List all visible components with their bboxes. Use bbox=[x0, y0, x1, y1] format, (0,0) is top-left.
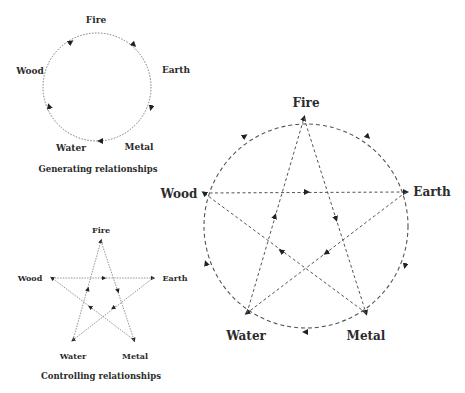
combined-label-wood: Wood bbox=[161, 187, 198, 201]
combined-label-water: Water bbox=[226, 329, 266, 343]
edge-fire-metal bbox=[304, 118, 366, 313]
controlling-caption: Controlling relationships bbox=[41, 371, 161, 381]
arrow-wood-to-fire-icon bbox=[68, 42, 71, 44]
controlling-label-wood: Wood bbox=[18, 273, 43, 283]
mid-arrow-water-fire-icon bbox=[274, 216, 275, 219]
arrow-water-to-wood-icon bbox=[206, 263, 207, 266]
controlling-star-diagram bbox=[52, 241, 153, 340]
generating-label-earth: Earth bbox=[162, 65, 190, 75]
arrow-earth-to-metal-icon bbox=[151, 104, 152, 108]
edge-water-fire bbox=[247, 118, 304, 313]
edge-metal-wood bbox=[204, 193, 366, 313]
generating-label-fire: Fire bbox=[86, 15, 106, 25]
combined-diagram bbox=[204, 118, 408, 332]
combined-label-fire: Fire bbox=[292, 96, 319, 110]
generating-cycle-diagram bbox=[43, 33, 152, 141]
controlling-label-water: Water bbox=[60, 351, 86, 361]
controlling-label-fire: Fire bbox=[92, 225, 110, 235]
combined-label-earth: Earth bbox=[413, 185, 451, 199]
generating-label-metal: Metal bbox=[124, 142, 153, 152]
combined-generating-circle bbox=[204, 124, 408, 328]
controlling-label-metal: Metal bbox=[122, 351, 148, 361]
arrow-fire-to-earth-icon bbox=[365, 134, 368, 137]
mid-arrow-metal-wood-icon bbox=[90, 307, 93, 309]
arrow-fire-to-earth-icon bbox=[131, 42, 134, 45]
controlling-label-earth: Earth bbox=[162, 273, 187, 283]
generating-circle bbox=[43, 33, 151, 141]
mid-arrow-fire-metal-icon bbox=[335, 216, 336, 219]
combined-label-metal: Metal bbox=[347, 329, 386, 343]
mid-arrow-metal-wood-icon bbox=[281, 251, 284, 253]
generating-label-wood: Wood bbox=[16, 66, 44, 76]
arrow-wood-to-fire-icon bbox=[242, 136, 245, 138]
generating-caption: Generating relationships bbox=[38, 164, 157, 174]
edge-water-fire bbox=[73, 241, 101, 340]
arrow-water-to-wood-icon bbox=[49, 106, 50, 109]
edge-earth-water bbox=[73, 278, 153, 340]
generating-label-water: Water bbox=[56, 143, 86, 153]
arrow-earth-to-metal-icon bbox=[405, 262, 406, 266]
edge-fire-metal bbox=[101, 241, 134, 340]
